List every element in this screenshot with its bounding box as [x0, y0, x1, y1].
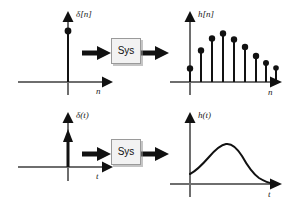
discrete-input-x-label: n	[96, 87, 101, 96]
continuous-output-y-label: h(t)	[198, 111, 211, 120]
stem-series	[187, 30, 279, 82]
discrete-output-x-label: n	[268, 88, 273, 97]
system-block-continuous-wrap: Sys	[78, 137, 170, 169]
stem-marker	[242, 44, 248, 50]
discrete-output-y-label: h[n]	[198, 10, 214, 19]
input-arrow-head	[97, 46, 111, 60]
system-block-discrete[interactable]: Sys	[111, 38, 141, 64]
system-block-continuous[interactable]: Sys	[111, 139, 141, 165]
system-block-continuous-label: Sys	[118, 147, 135, 157]
y-axis-arrowhead	[185, 11, 196, 22]
panel-discrete-output: h[n] n	[160, 0, 294, 105]
stem-marker	[253, 53, 259, 59]
x-axis-arrowhead	[102, 77, 113, 88]
stem-marker	[198, 47, 204, 53]
y-axis-arrowhead	[63, 11, 74, 22]
figure-canvas: δ[n] n Sys	[0, 0, 294, 211]
y-axis-arrowhead	[63, 112, 74, 123]
system-block-discrete-label: Sys	[118, 46, 135, 56]
system-block-discrete-wrap: Sys	[78, 36, 170, 68]
continuous-input-x-label: t	[96, 172, 99, 181]
impulse-response-curve	[190, 144, 273, 184]
input-arrow-head	[97, 147, 111, 161]
stem-marker	[65, 28, 72, 35]
continuous-output-plot	[160, 105, 294, 211]
discrete-output-plot	[160, 0, 294, 105]
impulse-arrowhead	[63, 129, 73, 142]
stem-marker	[273, 65, 279, 71]
stem-marker	[209, 35, 215, 41]
stem-marker	[187, 65, 193, 71]
panel-continuous-output: h(t) t	[160, 105, 294, 211]
continuous-output-x-label: t	[268, 190, 271, 199]
stem-marker	[220, 30, 226, 36]
y-axis-arrowhead	[185, 112, 196, 123]
stem-marker	[263, 60, 269, 66]
stem-marker	[231, 36, 237, 42]
continuous-input-y-label: δ(t)	[76, 111, 89, 120]
discrete-input-y-label: δ[n]	[76, 10, 92, 19]
